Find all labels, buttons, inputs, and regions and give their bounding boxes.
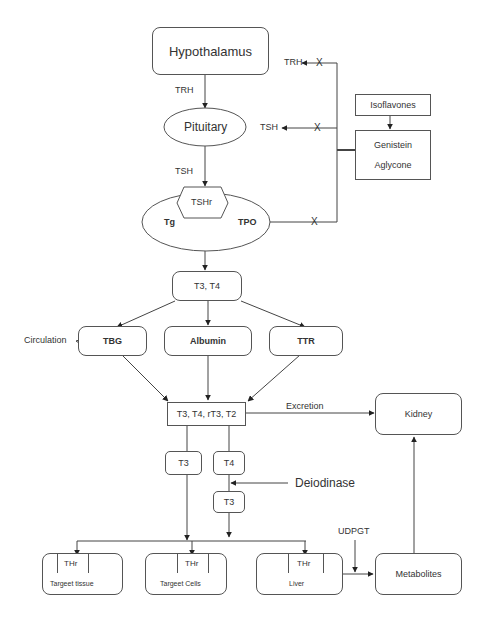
circulation-label: Circulation [24,336,67,345]
inhibit-mark-3: X [311,217,318,227]
genistein-label: Genistein [374,140,412,150]
tsh-inhibited-label: TSH [260,123,278,132]
inhibit-mark-1: X [316,58,323,68]
trh-label: TRH [175,86,194,95]
liver-node: THr Liver [256,553,343,595]
isoflavones-label: Isoflavones [370,100,416,110]
tpo-label: TPO [238,218,257,227]
t3-free-node: T3 [165,451,202,475]
pituitary-label: Pituitary [184,121,227,133]
ttr-node: TTR [269,326,343,356]
genistein-aglycone-node: Genistein Aglycone [355,130,431,180]
hypothalamus-node: Hypothalamus [152,27,269,75]
t3-t4-rt3-t2-label: T3, T4, rT3, T2 [177,409,237,419]
excretion-label: Excretion [286,402,324,411]
t4-label: T4 [224,458,235,468]
target-tissue-node: THr Targeet tissue [42,553,123,595]
t3-t4-rt3-t2-node: T3, T4, rT3, T2 [167,402,246,426]
udpgt-label: UDPGT [338,527,370,536]
thr-label: THr [64,560,77,568]
liver-label: Liver [289,580,304,587]
albumin-node: Albumin [164,326,252,356]
t3-converted-label: T3 [224,497,235,507]
target-cells-node: THr Targeet Cells [145,553,227,595]
t3-t4-node: T3, T4 [172,271,242,301]
target-tissue-label: Targeet tissue [50,580,94,587]
trh-inhibited-label: TRH [284,58,303,67]
albumin-label: Albumin [190,336,226,346]
metabolites-node: Metabolites [375,553,462,595]
kidney-label: Kidney [405,409,433,419]
tbg-node: TBG [78,326,147,356]
t3-t4-label: T3, T4 [194,281,220,291]
diagram-connectors [0,0,486,618]
isoflavones-node: Isoflavones [355,94,431,116]
kidney-node: Kidney [375,393,462,435]
tshr-label: TSHr [191,198,212,207]
target-cells-label: Targeet Cells [160,580,201,587]
tsh-label: TSH [175,167,193,176]
deiodinase-label: Deiodinase [295,477,355,489]
ttr-label: TTR [297,336,315,346]
t3-free-label: T3 [178,458,189,468]
thr-label: THr [297,560,310,568]
metabolites-label: Metabolites [395,569,441,579]
t3-converted-node: T3 [213,491,245,513]
thr-label: THr [185,560,198,568]
aglycone-label: Aglycone [374,160,411,170]
t4-node: T4 [213,451,245,475]
inhibit-mark-2: X [314,123,321,133]
tg-label: Tg [164,218,175,227]
tbg-label: TBG [103,336,122,346]
hypothalamus-label: Hypothalamus [169,44,252,59]
